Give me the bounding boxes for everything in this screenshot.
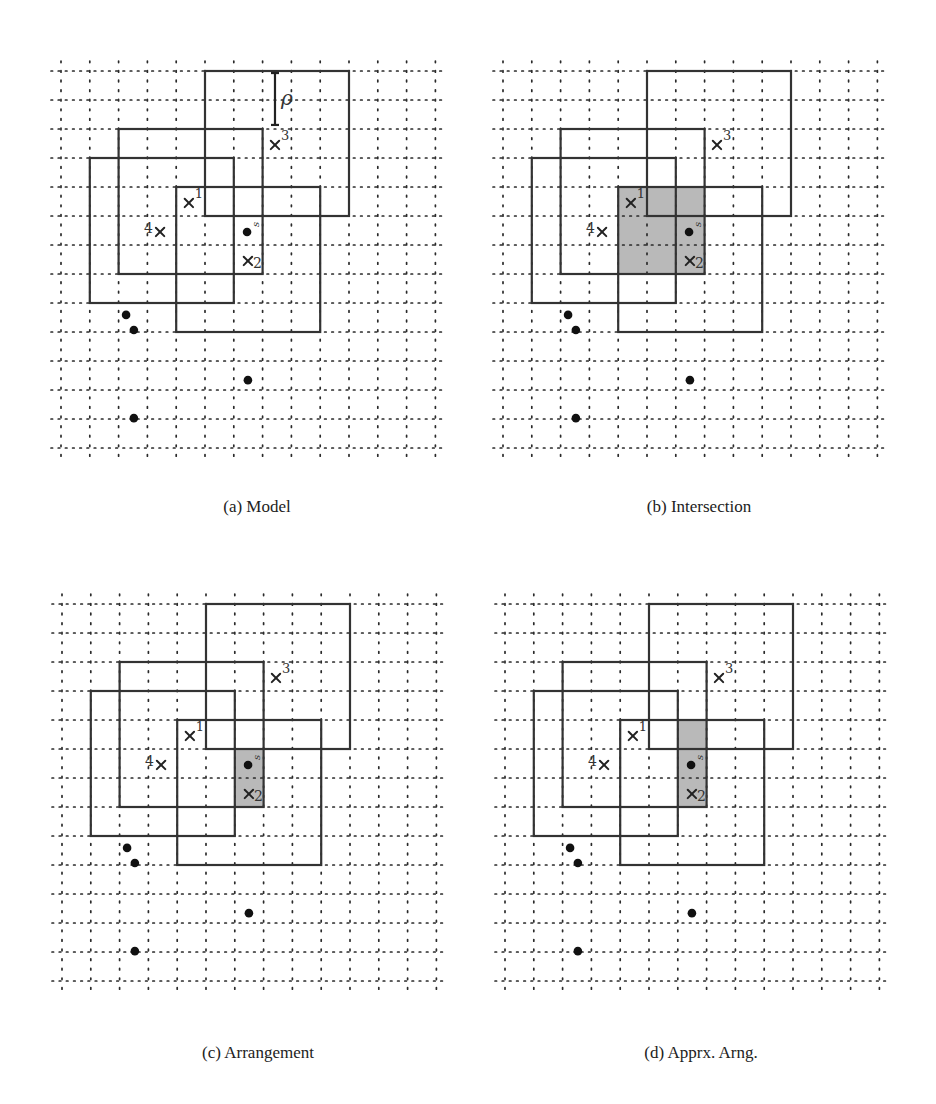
panel-approx-arrangement: 1423s (d) Apprx. Arng. [491, 590, 911, 1060]
filled-dot-icon [564, 311, 573, 320]
filled-dot-icon [130, 414, 139, 423]
filled-dot-icon [243, 228, 252, 237]
panel-model: 1423sρ (a) Model [47, 57, 467, 527]
diagram-canvas: 1423s [491, 590, 903, 1005]
panel-arrangement: 1423s (c) Arrangement [48, 590, 468, 1060]
rho-dimension-marker: ρ [271, 73, 293, 125]
point-label: 1 [195, 186, 203, 201]
point-label: 3 [725, 661, 733, 676]
cross-marker-icon: 1 [186, 719, 204, 740]
cross-marker-icon: 2 [244, 255, 262, 271]
cross-marker-icon: 1 [185, 186, 203, 207]
filled-dot-icon [572, 326, 581, 335]
point-label: 3 [723, 128, 731, 143]
filled-dot-icon [685, 228, 694, 237]
diagram-canvas: 1423s [48, 590, 460, 1005]
filled-dot-icon [688, 909, 697, 918]
filled-dot-icon [566, 844, 575, 853]
point-label: 2 [697, 788, 706, 804]
caption-arrangement: (c) Arrangement [48, 1043, 468, 1063]
query-point: s [243, 222, 261, 236]
filled-dot-icon [574, 947, 583, 956]
cross-marker-icon: 4 [145, 753, 165, 769]
cross-marker-icon: 4 [586, 220, 606, 236]
filled-dot-icon [572, 414, 581, 423]
point-label: 4 [588, 753, 597, 769]
point-label: 2 [254, 788, 263, 804]
cross-marker-icon: 4 [144, 220, 164, 236]
query-point-label: s [692, 222, 703, 227]
filled-dot-icon [130, 326, 139, 335]
cross-marker-icon: 4 [588, 753, 608, 769]
point-label: 1 [639, 719, 647, 734]
filled-dot-icon [244, 761, 253, 770]
filled-dot-icon [131, 947, 140, 956]
panel-intersection: 1423s (b) Intersection [489, 57, 909, 527]
filled-dot-icon [123, 844, 132, 853]
point-label: 4 [586, 220, 595, 236]
filled-dot-icon [687, 761, 696, 770]
caption-model: (a) Model [47, 497, 467, 517]
point-label: 3 [281, 128, 289, 143]
cross-marker-icon: 3 [272, 661, 290, 682]
query-point-label: s [250, 222, 261, 227]
cross-marker-icon: 3 [271, 128, 289, 149]
point-label: 3 [282, 661, 290, 676]
filled-dot-icon [122, 311, 131, 320]
filled-dot-icon [686, 376, 695, 385]
cross-marker-icon: 3 [715, 661, 733, 682]
query-point-label: s [251, 755, 262, 760]
diagram-canvas: 1423sρ [47, 57, 459, 472]
query-point-label: s [694, 755, 705, 760]
point-label: 2 [253, 255, 262, 271]
cross-marker-icon: 1 [629, 719, 647, 740]
filled-dot-icon [244, 376, 253, 385]
filled-dot-icon [574, 859, 583, 868]
point-label: 1 [637, 186, 645, 201]
cross-marker-icon: 3 [713, 128, 731, 149]
filled-dot-icon [245, 909, 254, 918]
diagram-canvas: 1423s [489, 57, 901, 472]
point-label: 1 [196, 719, 204, 734]
point-label: 2 [695, 255, 704, 271]
rho-label: ρ [280, 86, 293, 110]
filled-dot-icon [131, 859, 140, 868]
point-label: 4 [145, 753, 154, 769]
caption-approx-arrangement: (d) Apprx. Arng. [491, 1043, 911, 1063]
point-label: 4 [144, 220, 153, 236]
caption-intersection: (b) Intersection [489, 497, 909, 517]
